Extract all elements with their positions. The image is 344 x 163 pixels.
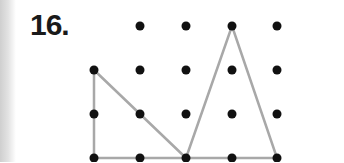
grid-dot	[136, 66, 145, 75]
grid-dot	[90, 110, 99, 119]
grid-dot	[228, 66, 237, 75]
dot-grid-diagram	[0, 0, 344, 162]
grid-dot	[182, 22, 191, 31]
grid-dot	[136, 22, 145, 31]
grid-dot	[228, 22, 237, 31]
grid-dot	[182, 66, 191, 75]
grid-dot	[228, 110, 237, 119]
grid-dot	[273, 22, 282, 31]
grid-dot	[90, 66, 99, 75]
grid-dot	[273, 154, 282, 163]
grid-dot	[273, 66, 282, 75]
isosceles-triangle	[186, 26, 277, 158]
grid-dot	[136, 154, 145, 163]
grid-dot	[273, 110, 282, 119]
grid-dot	[136, 110, 145, 119]
grid-dot	[228, 154, 237, 163]
grid-dot	[182, 110, 191, 119]
grid-dot	[90, 154, 99, 163]
